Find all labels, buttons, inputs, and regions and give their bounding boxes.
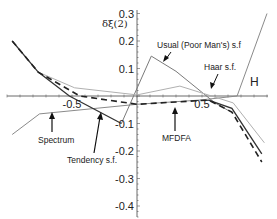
y-tick-label: -0.4 bbox=[115, 200, 134, 212]
annotation-haar: Haar s.f. bbox=[204, 62, 236, 72]
y-minor-ticks bbox=[137, 14, 140, 218]
arrow-tendency bbox=[94, 117, 100, 153]
y-tick-label: 0.1 bbox=[119, 63, 134, 75]
annotation-tendency: Tendency s.f. bbox=[67, 155, 117, 165]
y-axis-label: δξ(2) bbox=[102, 18, 128, 29]
y-tick-label: 0.2 bbox=[119, 35, 134, 47]
annotation-spectrum: Spectrum bbox=[38, 135, 74, 145]
x-tick-label: -0.5 bbox=[63, 98, 82, 110]
arrow-haar bbox=[213, 74, 218, 85]
arrowhead-mfdfa bbox=[172, 107, 178, 114]
y-tick-label: -0.1 bbox=[115, 118, 134, 130]
chart: 0.30.20.1-0.1-0.2-0.3-0.4-0.50.5 δξ(2) H… bbox=[0, 0, 277, 219]
x-tick-label: 0.5 bbox=[194, 98, 209, 110]
annotation-usual: Usual (Poor Man's) s.f bbox=[157, 40, 241, 50]
annotation-mfdfa: MFDFA bbox=[162, 133, 191, 143]
y-tick-label: -0.2 bbox=[115, 145, 134, 157]
x-axis-label: H bbox=[250, 75, 259, 89]
y-tick-label: -0.3 bbox=[115, 173, 134, 185]
